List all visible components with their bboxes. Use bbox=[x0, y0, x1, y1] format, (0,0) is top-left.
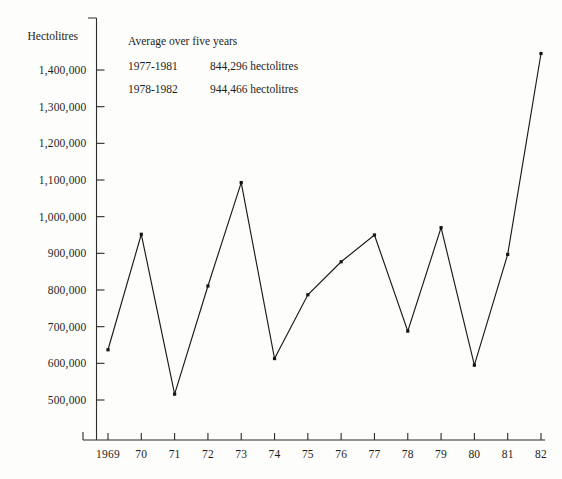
annotation-value-2: 944,466 hectolitres bbox=[210, 83, 299, 96]
x-tick-label-1973: 73 bbox=[235, 448, 247, 460]
annotation-heading: Average over five years bbox=[128, 35, 238, 48]
data-point-1975 bbox=[306, 293, 309, 296]
data-point-1982 bbox=[539, 52, 542, 55]
x-tick-label-1971: 71 bbox=[169, 448, 181, 460]
x-tick-group bbox=[108, 433, 541, 440]
x-tick-label-1975: 75 bbox=[302, 448, 314, 460]
y-tick-label-group: 500,000600,000700,000800,000900,0001,000… bbox=[39, 64, 87, 407]
x-tick-label-1978: 78 bbox=[402, 448, 414, 460]
x-tick-label-group: 196970717273747576777879808182 bbox=[96, 448, 547, 460]
data-point-1979 bbox=[439, 226, 442, 229]
x-axis-line bbox=[83, 432, 545, 440]
y-tick-label-500000: 500,000 bbox=[48, 394, 87, 407]
data-point-1981 bbox=[506, 253, 509, 256]
x-tick-label-1982: 82 bbox=[535, 448, 547, 460]
axes-group bbox=[83, 18, 545, 440]
y-tick-label-1200000: 1,200,000 bbox=[39, 137, 87, 150]
data-point-1970 bbox=[140, 233, 143, 236]
y-tick-group bbox=[97, 70, 105, 400]
data-point-1973 bbox=[240, 181, 243, 184]
y-tick-label-700000: 700,000 bbox=[48, 321, 87, 334]
chart-page: 500,000600,000700,000800,000900,0001,000… bbox=[0, 0, 562, 479]
y-tick-label-1300000: 1,300,000 bbox=[39, 101, 87, 114]
y-tick-label-800000: 800,000 bbox=[48, 284, 87, 297]
annotation-block: Average over five years 1977-1981 844,29… bbox=[128, 35, 299, 96]
data-point-1976 bbox=[340, 260, 343, 263]
y-tick-label-1000000: 1,000,000 bbox=[39, 211, 87, 224]
data-point-1969 bbox=[106, 348, 109, 351]
x-tick-label-1981: 81 bbox=[502, 448, 514, 460]
y-tick-label-1100000: 1,100,000 bbox=[39, 174, 87, 187]
x-tick-label-1969: 1969 bbox=[96, 448, 120, 460]
data-point-1977 bbox=[373, 233, 376, 236]
annotation-period-2: 1978-1982 bbox=[128, 83, 178, 95]
annotation-period-1: 1977-1981 bbox=[128, 60, 178, 72]
x-tick-label-1972: 72 bbox=[202, 448, 214, 460]
data-point-1978 bbox=[406, 329, 409, 332]
y-tick-label-1400000: 1,400,000 bbox=[39, 64, 87, 77]
data-point-group bbox=[106, 52, 542, 396]
y-tick-label-600000: 600,000 bbox=[48, 357, 87, 370]
annotation-value-1: 844,296 hectolitres bbox=[210, 60, 299, 73]
x-tick-label-1974: 74 bbox=[269, 448, 281, 460]
x-tick-label-1970: 70 bbox=[135, 448, 147, 460]
x-tick-label-1977: 77 bbox=[369, 448, 381, 460]
data-point-1980 bbox=[473, 364, 476, 367]
data-point-1974 bbox=[273, 357, 276, 360]
data-point-1972 bbox=[206, 284, 209, 287]
data-series-line bbox=[108, 54, 541, 395]
y-axis-line bbox=[88, 18, 97, 440]
x-tick-label-1980: 80 bbox=[468, 448, 480, 460]
line-chart: 500,000600,000700,000800,000900,0001,000… bbox=[0, 0, 562, 479]
y-axis-title: Hectolitres bbox=[28, 30, 79, 42]
x-tick-label-1979: 79 bbox=[435, 448, 447, 460]
x-tick-label-1976: 76 bbox=[335, 448, 347, 460]
y-tick-label-900000: 900,000 bbox=[48, 247, 87, 260]
data-point-1971 bbox=[173, 393, 176, 396]
